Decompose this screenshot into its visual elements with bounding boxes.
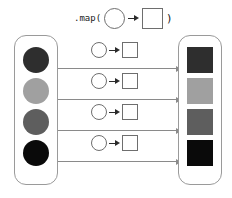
row-4-output-square-icon: [122, 135, 138, 151]
row-3-input-circle-icon: [91, 104, 107, 120]
output-item-1-square: [187, 47, 213, 73]
connector-line-4: [58, 161, 180, 162]
row-2-output-square-icon: [122, 73, 138, 89]
row-4-input-circle-icon: [91, 135, 107, 151]
row-2-input-circle-icon: [91, 73, 107, 89]
header-transform-arrow-icon: [128, 14, 139, 22]
input-item-4-circle: [23, 140, 49, 166]
row-4-transform-arrow-icon: [109, 139, 120, 147]
output-item-2-square: [187, 78, 213, 104]
input-item-2-circle: [23, 78, 49, 104]
row-3-transform-arrow-icon: [109, 108, 120, 116]
connector-line-1: [58, 68, 180, 69]
row-1-output-square-icon: [122, 42, 138, 58]
input-item-1-circle: [23, 47, 49, 73]
output-item-3-square: [187, 109, 213, 135]
map-method-label: .map(: [74, 14, 101, 23]
connector-line-2: [58, 99, 180, 100]
map-row-3: [91, 104, 138, 120]
row-1-input-circle-icon: [91, 42, 107, 58]
input-collection-container: [14, 35, 58, 185]
map-row-4: [91, 135, 138, 151]
output-collection-container: [178, 35, 222, 185]
connector-line-3: [58, 130, 180, 131]
header-output-square-icon: [142, 8, 163, 29]
map-row-2: [91, 73, 138, 89]
map-row-1: [91, 42, 138, 58]
header-input-circle-icon: [104, 8, 125, 29]
output-item-4-square: [187, 140, 213, 166]
map-expression-header: .map( ): [74, 4, 173, 32]
row-2-transform-arrow-icon: [109, 77, 120, 85]
input-item-3-circle: [23, 109, 49, 135]
row-3-output-square-icon: [122, 104, 138, 120]
map-diagram: .map( ): [0, 0, 232, 198]
closing-paren-label: ): [166, 13, 173, 24]
row-1-transform-arrow-icon: [109, 46, 120, 54]
